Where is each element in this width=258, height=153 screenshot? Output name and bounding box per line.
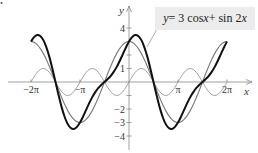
y-tick-label: −4: [114, 131, 125, 142]
equation-rhs-1: = 3 cos: [169, 11, 204, 26]
equation-rhs-2: + sin 2: [209, 11, 242, 26]
x-axis-label: x: [243, 85, 249, 97]
x-tick-label: −2π: [23, 84, 39, 95]
equation-annotation: y = 3 cos x + sin 2x: [155, 7, 255, 30]
y-tick-label: 1: [120, 63, 125, 74]
corner-dot: [1, 2, 3, 4]
equation-var-2: x: [241, 11, 246, 26]
x-tick-label: 2π: [222, 84, 232, 95]
annotation-leader-line: [147, 29, 157, 47]
y-tick-label: −3: [114, 117, 125, 128]
y-axis-label: y: [118, 4, 124, 16]
y-tick-label: 4: [120, 23, 125, 34]
y-tick-label: −2: [114, 104, 125, 115]
x-tick-label: −π: [75, 84, 86, 95]
